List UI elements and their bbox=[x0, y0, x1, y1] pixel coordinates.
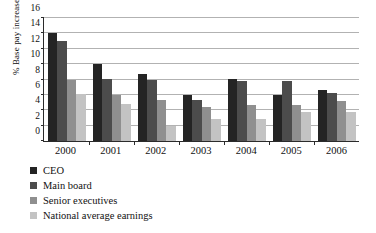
bar bbox=[327, 93, 337, 141]
bar-groups bbox=[44, 18, 359, 141]
legend-swatch bbox=[30, 212, 37, 219]
x-axis-labels: 2000200120022003200420052006 bbox=[43, 145, 359, 156]
bar bbox=[337, 101, 347, 141]
legend-swatch bbox=[30, 167, 37, 174]
bar bbox=[166, 126, 176, 141]
x-axis-tick-label: 2003 bbox=[178, 145, 223, 156]
legend-label: Senior executives bbox=[43, 195, 117, 206]
y-axis-tick-label: 14 bbox=[31, 18, 41, 28]
legend-label: CEO bbox=[43, 165, 64, 176]
bar bbox=[228, 79, 238, 141]
legend-label: Main board bbox=[43, 180, 92, 191]
x-axis-tick-label: 2001 bbox=[88, 145, 133, 156]
bar bbox=[67, 80, 77, 141]
legend-item: Senior executives bbox=[30, 193, 153, 208]
y-axis-tick-label: 4 bbox=[35, 95, 40, 105]
bar bbox=[192, 100, 202, 142]
x-axis-tick-label: 2006 bbox=[314, 145, 359, 156]
bar bbox=[256, 119, 266, 141]
y-axis-tick-label: 6 bbox=[35, 80, 40, 90]
bar bbox=[346, 112, 356, 141]
bar bbox=[147, 80, 157, 141]
x-axis-tick-label: 2002 bbox=[133, 145, 178, 156]
legend: CEOMain boardSenior executivesNational a… bbox=[30, 163, 153, 223]
bar bbox=[183, 95, 193, 141]
legend-item: Main board bbox=[30, 178, 153, 193]
bar bbox=[282, 81, 292, 141]
bar bbox=[112, 95, 122, 141]
bar-group bbox=[179, 18, 224, 141]
bar bbox=[57, 41, 67, 141]
x-axis-tick-label: 2005 bbox=[269, 145, 314, 156]
bar bbox=[138, 74, 148, 141]
bar bbox=[318, 90, 328, 142]
bar bbox=[292, 105, 302, 141]
y-axis-tick-label: 12 bbox=[31, 34, 41, 44]
bar bbox=[102, 79, 112, 141]
legend-label: National average earnings bbox=[43, 210, 153, 221]
y-axis-tick-label: 16 bbox=[31, 3, 41, 13]
y-axis-title: % Base pay increase bbox=[11, 0, 21, 97]
bar bbox=[211, 119, 221, 141]
legend-item: CEO bbox=[30, 163, 153, 178]
x-axis-tick-label: 2000 bbox=[43, 145, 88, 156]
bar-group bbox=[224, 18, 269, 141]
bar-group bbox=[44, 18, 89, 141]
bar bbox=[76, 94, 86, 141]
bar-group bbox=[134, 18, 179, 141]
bar bbox=[237, 81, 247, 141]
y-axis-tick-label: 0 bbox=[35, 126, 40, 136]
bar bbox=[48, 33, 58, 141]
bar-group bbox=[269, 18, 314, 141]
y-axis-tick-label: 10 bbox=[31, 49, 41, 59]
bar bbox=[93, 64, 103, 141]
x-axis-tick-label: 2004 bbox=[224, 145, 269, 156]
bar-group bbox=[89, 18, 134, 141]
bar bbox=[301, 112, 311, 141]
plot-area: 0246810121416 bbox=[43, 18, 359, 142]
bar bbox=[247, 105, 257, 141]
bar bbox=[121, 104, 131, 141]
bar-group bbox=[314, 18, 359, 141]
bar bbox=[202, 107, 212, 141]
legend-swatch bbox=[30, 197, 37, 204]
bar bbox=[273, 95, 283, 141]
y-axis-tick-label: 8 bbox=[35, 65, 40, 75]
legend-item: National average earnings bbox=[30, 208, 153, 223]
legend-swatch bbox=[30, 182, 37, 189]
bar bbox=[157, 100, 167, 141]
chart-container: % Base pay increase 0246810121416 200020… bbox=[0, 0, 376, 233]
y-axis-tick-label: 2 bbox=[35, 111, 40, 121]
